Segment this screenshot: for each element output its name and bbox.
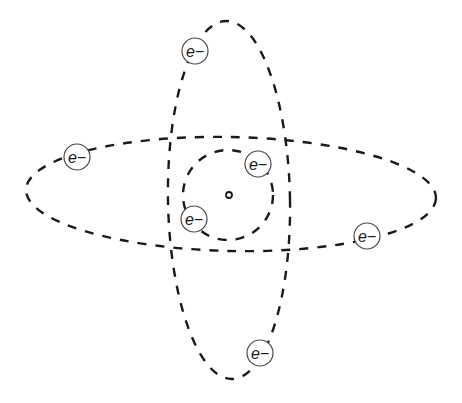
atom-diagram: e−e−e−e−e−e− [0,0,462,403]
electron-left: e− [64,144,90,170]
electron-top: e− [182,38,208,64]
nucleus [226,192,232,198]
electron-label: e− [186,43,204,60]
orbits-group [25,20,437,380]
electron-bottom: e− [247,340,273,366]
electron-label: e− [68,149,86,166]
electron-label: e− [249,156,267,173]
electrons-group: e−e−e−e−e−e− [64,38,380,366]
electron-inner-upper: e− [245,151,271,177]
electron-label: e− [251,345,269,362]
electron-label: e− [185,211,203,228]
electron-right: e− [354,223,380,249]
electron-inner-lower: e− [181,206,207,232]
electron-label: e− [358,228,376,245]
